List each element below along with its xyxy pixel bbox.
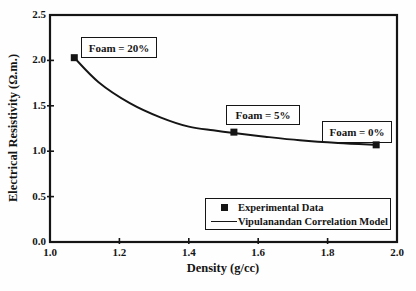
legend-entry-model: Vipulanandan Correlation Model [206, 214, 390, 228]
annotation-foam-5-label: Foam = 5% [235, 109, 290, 121]
annotation-foam-20-label: Foam = 20% [89, 42, 150, 54]
x-tick-label: 1.8 [316, 246, 340, 258]
annotation-foam-5: Foam = 5% [226, 105, 300, 125]
chart-figure: Electrical Resistivity (Ω.m.) Density (g… [0, 0, 416, 291]
legend-label-experimental: Experimental Data [238, 202, 323, 213]
x-tick-label: 1.0 [38, 246, 62, 258]
y-tick-label: 1.5 [20, 99, 46, 111]
data-point-marker [71, 54, 78, 61]
legend-label-model: Vipulanandan Correlation Model [238, 216, 388, 227]
data-point-marker [230, 129, 237, 136]
y-tick-label: 0.5 [20, 190, 46, 202]
x-tick-label: 1.2 [107, 246, 131, 258]
y-tick-label: 1.0 [20, 144, 46, 156]
y-axis-label: Electrical Resistivity (Ω.m.) [6, 54, 21, 202]
annotation-foam-20: Foam = 20% [81, 37, 157, 58]
plot-canvas [0, 0, 416, 291]
x-tick-label: 2.0 [385, 246, 409, 258]
x-axis-label: Density (g/cc) [153, 261, 293, 276]
y-tick-label: 0.0 [20, 235, 46, 247]
legend: Experimental Data Vipulanandan Correlati… [205, 198, 391, 230]
y-tick-label: 2.5 [20, 8, 46, 20]
legend-entry-experimental: Experimental Data [206, 200, 390, 214]
legend-square-marker-icon [221, 204, 228, 211]
legend-line-sample-icon [211, 221, 237, 222]
y-tick-label: 2.0 [20, 53, 46, 65]
annotation-foam-0-label: Foam = 0% [329, 126, 384, 138]
x-tick-label: 1.6 [246, 246, 270, 258]
x-tick-label: 1.4 [177, 246, 201, 258]
annotation-foam-0: Foam = 0% [322, 121, 392, 143]
